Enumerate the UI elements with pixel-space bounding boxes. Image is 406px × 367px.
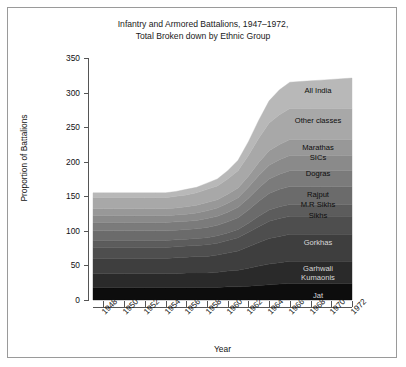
series-label-sikhs: Sikhs: [278, 211, 358, 220]
y-tick-label: 250: [46, 122, 80, 132]
figure-canvas: Infantry and Armored Battalions, 1947–19…: [0, 0, 406, 367]
y-tick-label: 200: [46, 157, 80, 167]
series-label-all-india: All India: [278, 86, 358, 95]
series-label-m-r-sikhs: M.R Sikhs: [278, 200, 358, 209]
y-tick-mark: [84, 127, 88, 128]
y-tick-mark: [84, 196, 88, 197]
y-tick-label: 0: [46, 295, 80, 305]
y-axis-label: Proportion of Battalions: [19, 98, 29, 218]
y-tick-label: 50: [46, 260, 80, 270]
y-tick-mark: [84, 300, 88, 301]
plot-area: 050100150200250300350 194819501952195419…: [0, 0, 406, 367]
y-tick-mark: [84, 93, 88, 94]
series-label-rajput: Rajput: [278, 190, 358, 199]
series-label-other-classes: Other classes: [278, 116, 358, 125]
series-label-gorkhas: Gorkhas: [278, 238, 358, 247]
y-tick-label: 100: [46, 226, 80, 236]
y-tick-mark: [84, 231, 88, 232]
x-axis-label: Year: [93, 344, 352, 354]
series-label-dogras: Dogras: [278, 169, 358, 178]
y-tick-label: 150: [46, 191, 80, 201]
y-tick-mark: [84, 162, 88, 163]
series-label-sics: SICs: [278, 153, 358, 162]
series-label-garhwali: Garhwali: [278, 264, 358, 273]
y-tick-label: 350: [46, 53, 80, 63]
y-tick-mark: [84, 265, 88, 266]
series-label-marathas: Marathas: [278, 143, 358, 152]
y-axis-line: [88, 58, 89, 301]
series-label-kumaonis: Kumaonis: [278, 273, 358, 282]
series-label-jat: Jat: [278, 291, 358, 300]
y-tick-mark: [84, 58, 88, 59]
y-tick-label: 300: [46, 88, 80, 98]
